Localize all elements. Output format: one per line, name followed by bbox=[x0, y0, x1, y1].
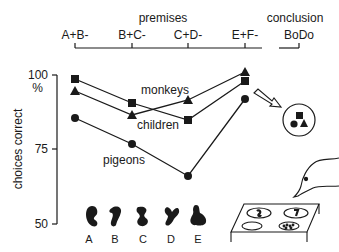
stimulus-shapes bbox=[86, 205, 206, 226]
square-marker bbox=[184, 116, 192, 124]
percent-unit: % bbox=[32, 81, 43, 95]
circle-marker bbox=[184, 172, 192, 180]
square-marker bbox=[241, 77, 249, 85]
stimulus-label-a: A bbox=[85, 233, 93, 245]
shape-a-icon bbox=[86, 206, 97, 226]
stimulus-label-e: E bbox=[194, 233, 201, 245]
conclusion-label: conclusion bbox=[267, 11, 324, 25]
premise-2: B+C- bbox=[118, 28, 146, 42]
shape-c-icon bbox=[137, 207, 148, 226]
premises-bracket bbox=[75, 43, 262, 48]
y-axis bbox=[52, 75, 57, 224]
triangle-marker bbox=[240, 67, 250, 76]
stimulus-label-b: B bbox=[111, 233, 118, 245]
label-monkeys: monkeys bbox=[141, 83, 189, 97]
stimulus-label-d: D bbox=[167, 233, 175, 245]
conclusion-value: BoDo bbox=[284, 28, 314, 42]
stimulus-label-c: C bbox=[139, 233, 147, 245]
circle-marker bbox=[241, 95, 249, 103]
conclusion-bracket bbox=[279, 43, 299, 48]
shape-e-icon bbox=[190, 205, 206, 226]
premise-1: A+B- bbox=[61, 28, 88, 42]
tick-50: 50 bbox=[35, 217, 49, 231]
shape-d-icon bbox=[165, 207, 179, 225]
shape-b-icon bbox=[109, 207, 121, 227]
tick-75: 75 bbox=[35, 142, 49, 156]
premises-label: premises bbox=[139, 11, 188, 25]
circle-marker bbox=[290, 120, 297, 127]
test-apparatus-icon bbox=[231, 204, 319, 242]
label-pigeons: pigeons bbox=[103, 153, 145, 167]
triangle-marker bbox=[70, 86, 80, 95]
conclusion-result bbox=[283, 104, 315, 136]
square-marker bbox=[296, 112, 303, 119]
square-marker bbox=[71, 75, 79, 83]
circle-marker bbox=[128, 140, 136, 148]
tick-100: 100 bbox=[28, 68, 48, 82]
y-axis-label: choices correct bbox=[11, 108, 25, 189]
premise-4: E+F- bbox=[232, 28, 258, 42]
pigeon-head-icon bbox=[294, 158, 339, 197]
square-marker bbox=[128, 99, 136, 107]
arrow-icon bbox=[254, 89, 281, 107]
circle-marker bbox=[71, 114, 79, 122]
premise-3: C+D- bbox=[174, 28, 202, 42]
figure: premises conclusion A+B- B+C- C+D- E+F- … bbox=[0, 0, 339, 252]
label-children: children bbox=[137, 118, 179, 132]
